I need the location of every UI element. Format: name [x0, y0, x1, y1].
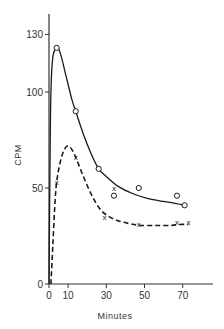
- cross-marker: x: [112, 184, 116, 193]
- circle-marker: [54, 45, 59, 50]
- circle-marker: [136, 185, 141, 190]
- circle-marker: [111, 193, 116, 198]
- x-tick-label: 70: [177, 290, 189, 301]
- circle-marker: [174, 193, 179, 198]
- plot-series: xxxxxxx: [49, 45, 190, 284]
- cross-marker: x: [137, 220, 141, 229]
- x-tick-label: 10: [63, 290, 75, 301]
- x-axis-ticks: 010305070: [46, 284, 188, 301]
- circle-marker: [182, 203, 187, 208]
- y-tick-label: 100: [26, 87, 43, 98]
- series-crosses: xxxxxxx: [51, 146, 191, 284]
- x-tick-label: 0: [46, 290, 52, 301]
- cross-marker: x: [175, 218, 179, 227]
- circle-marker: [73, 109, 78, 114]
- y-axis-ticks: 050100130: [26, 29, 49, 290]
- cross-marker: x: [102, 213, 106, 222]
- cross-marker: x: [186, 218, 190, 227]
- y-tick-label: 0: [37, 279, 43, 290]
- chart: 050100130 010305070 CPM Minutes xxxxxxx: [0, 0, 224, 329]
- x-tick-label: 50: [139, 290, 151, 301]
- cross-marker: x: [74, 153, 78, 162]
- axes: [49, 14, 213, 284]
- x-tick-label: 30: [101, 290, 113, 301]
- dashed-curve: [51, 146, 189, 284]
- circle-marker: [96, 166, 101, 171]
- x-axis-label: Minutes: [97, 311, 132, 321]
- cross-marker: x: [55, 178, 59, 187]
- y-tick-label: 130: [26, 29, 43, 40]
- y-tick-label: 50: [32, 183, 44, 194]
- y-axis-label: CPM: [13, 144, 23, 166]
- solid-curve: [49, 48, 185, 284]
- series-circles: [49, 45, 187, 284]
